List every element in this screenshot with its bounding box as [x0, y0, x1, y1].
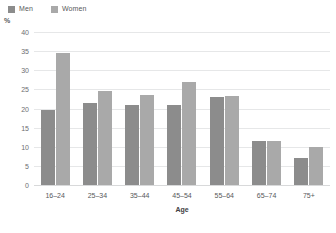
y-axis-tick-label: 30 [21, 67, 29, 74]
y-axis-tick-label: 10 [21, 143, 29, 150]
bar-men[interactable] [210, 97, 224, 185]
bar-group: 45–54 [161, 32, 203, 185]
chart-legend: Men Women [8, 3, 86, 15]
y-axis-unit-label: % [4, 17, 10, 24]
bar-men[interactable] [294, 158, 308, 185]
legend-swatch-women [51, 6, 58, 13]
x-axis-tick-label: 65–74 [257, 192, 276, 200]
bar-group: 55–64 [203, 32, 245, 185]
bar-women[interactable] [309, 147, 323, 185]
bar-group: 65–74 [245, 32, 287, 185]
y-axis-tick-label: 0 [25, 182, 29, 189]
y-axis-tick-label: 35 [21, 48, 29, 55]
legend-label-men: Men [19, 5, 33, 13]
bar-women[interactable] [56, 53, 70, 185]
bar-group: 16–24 [34, 32, 76, 185]
y-axis-tick-label: 15 [21, 124, 29, 131]
y-axis-tick-label: 25 [21, 86, 29, 93]
y-axis-tick-label: 20 [21, 105, 29, 112]
bar-group: 25–34 [76, 32, 118, 185]
bar-women[interactable] [98, 91, 112, 185]
bar-group: 35–44 [119, 32, 161, 185]
x-axis-tick-label: 75+ [303, 192, 315, 200]
x-axis-tick-label: 35–44 [130, 192, 149, 200]
legend-item-men: Men [8, 5, 33, 13]
bar-men[interactable] [83, 103, 97, 185]
y-axis-tick-label: 5 [25, 162, 29, 169]
plot-area: 0510152025303540 16–2425–3435–4445–5455–… [34, 32, 330, 185]
bar-men[interactable] [252, 141, 266, 185]
bar-groups: 16–2425–3435–4445–5455–6465–7475+ [34, 32, 330, 185]
legend-swatch-men [8, 6, 15, 13]
bar-men[interactable] [41, 110, 55, 185]
x-axis-title: Age [34, 206, 330, 213]
y-axis-tick-label: 40 [21, 29, 29, 36]
bar-women[interactable] [140, 95, 154, 185]
x-axis-tick-label: 25–34 [88, 192, 107, 200]
bar-group: 75+ [288, 32, 330, 185]
bar-men[interactable] [167, 105, 181, 185]
bar-chart: Men Women % 0510152025303540 16–2425–343… [0, 0, 336, 233]
bar-women[interactable] [267, 141, 281, 185]
x-axis-tick-label: 55–64 [215, 192, 234, 200]
legend-label-women: Women [62, 5, 87, 13]
gridline: 0 [34, 185, 330, 186]
x-axis-tick-label: 45–54 [172, 192, 191, 200]
bar-women[interactable] [225, 96, 239, 185]
legend-item-women: Women [51, 5, 87, 13]
bar-men[interactable] [125, 105, 139, 185]
x-axis-tick-label: 16–24 [45, 192, 64, 200]
bar-women[interactable] [182, 82, 196, 185]
